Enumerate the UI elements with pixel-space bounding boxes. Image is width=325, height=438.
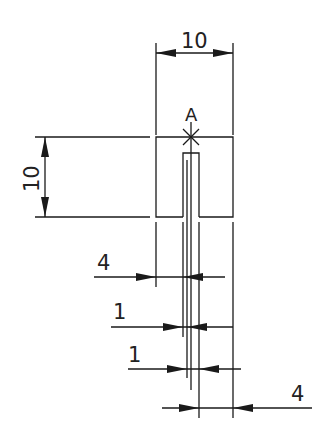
dimension-left-height: 10 — [20, 137, 150, 217]
dimension-4-upper-label: 4 — [97, 251, 110, 275]
dimension-4-upper: 4 — [94, 251, 225, 281]
dimension-4-lower-label: 4 — [291, 382, 304, 406]
dimension-1-lower: 1 — [128, 343, 241, 373]
technical-drawing: A 10 10 4 1 — [0, 0, 325, 438]
dimension-left-label: 10 — [20, 165, 44, 192]
dimension-1-lower-label: 1 — [128, 343, 141, 367]
dimension-1-upper-label: 1 — [113, 300, 126, 324]
part-outline — [156, 137, 233, 217]
point-a-label: A — [185, 104, 198, 125]
dimension-top-label: 10 — [181, 29, 208, 53]
dimension-1-upper: 1 — [111, 300, 233, 331]
extension-lines-below — [156, 160, 233, 418]
dimension-4-lower: 4 — [162, 382, 312, 412]
